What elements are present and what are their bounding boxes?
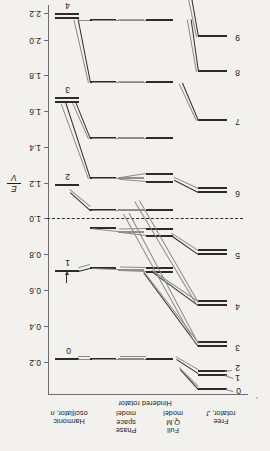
axis-tick xyxy=(44,254,49,255)
correlation-line xyxy=(120,20,146,21)
free-rotator-level xyxy=(198,119,227,121)
correlation-line xyxy=(120,270,146,272)
correlation-line xyxy=(92,82,118,83)
axis-tick-label: 2.0 xyxy=(29,36,41,46)
hindered-rotator-level xyxy=(146,19,173,21)
correlation-line xyxy=(129,213,199,344)
correlation-line xyxy=(92,268,118,270)
harmonic-oscillator-level xyxy=(55,184,79,186)
correlation-line xyxy=(92,20,118,21)
correlation-line xyxy=(172,236,199,255)
label-leader-line xyxy=(225,375,234,379)
scan-artifact-speck xyxy=(256,397,258,399)
label-leader-line xyxy=(225,370,232,372)
correlation-line xyxy=(92,210,118,211)
correlation-line xyxy=(179,367,199,387)
free-rotator-level xyxy=(198,70,227,72)
free-rotator-label-7: 7 xyxy=(235,117,240,127)
free-rotator-label-1: 1 xyxy=(235,373,240,383)
hindered-rotator-level xyxy=(146,209,173,211)
correlation-line xyxy=(179,83,197,121)
axis-tick xyxy=(44,13,49,14)
correlation-line xyxy=(120,82,146,83)
axis-tick xyxy=(44,183,49,184)
harmonic-oscillator-level xyxy=(55,358,79,360)
column-header-harmonic-oscillator: Harmonic oscillator, n xyxy=(36,408,102,425)
free-rotator-level xyxy=(198,374,227,376)
harmonic-oscillator-level xyxy=(55,17,79,19)
harmonic-oscillator-label-4: 4 xyxy=(65,1,70,11)
free-rotator-label-8: 8 xyxy=(235,68,240,78)
hindered-rotator-level xyxy=(146,358,173,360)
free-rotator-level xyxy=(198,388,227,390)
correlation-line xyxy=(69,189,90,207)
harmonic-oscillator-label-3: 3 xyxy=(65,85,70,95)
column-header-hindered-rotator: Hindered rotator xyxy=(102,399,188,407)
free-rotator-label-5: 5 xyxy=(235,251,240,261)
free-rotator-level xyxy=(198,341,227,343)
correlation-line xyxy=(171,233,198,251)
free-rotator-label-9: 9 xyxy=(235,33,240,43)
free-rotator-label-2: 2 xyxy=(235,363,240,373)
correlation-line xyxy=(120,359,146,360)
free-rotator-level xyxy=(198,345,227,347)
free-rotator-label-3: 3 xyxy=(235,343,240,353)
free-rotator-level xyxy=(198,249,227,251)
hindered-rotator-level xyxy=(146,81,173,83)
figure-canvas: Free rotator, J Hindered rotator Full Q.… xyxy=(0,0,270,451)
energy-axis-line xyxy=(48,5,49,395)
harmonic-oscillator-level xyxy=(55,97,79,99)
axis-tick xyxy=(44,75,49,76)
axis-tick xyxy=(44,290,49,291)
free-rotator-level xyxy=(198,191,227,193)
correlation-line xyxy=(182,83,199,121)
axis-tick xyxy=(44,111,49,112)
free-rotator-level xyxy=(198,304,227,306)
correlation-line xyxy=(120,356,146,357)
correlation-line xyxy=(119,179,146,182)
axis-tick-label: 1.8 xyxy=(29,71,41,81)
free-rotator-label-4: 4 xyxy=(235,302,240,312)
plot-top-border xyxy=(48,394,248,395)
column-header-phase-space-model: Phase space model xyxy=(106,409,146,434)
harmonic-oscillator-label-0: 0 xyxy=(66,346,71,356)
correlation-line xyxy=(75,102,91,139)
column-header-full-qm-model: Full Q.M model xyxy=(158,409,188,434)
correlation-line xyxy=(61,103,89,179)
axis-label-E-over-V: E V xyxy=(7,174,21,193)
correlation-line xyxy=(120,210,146,211)
correlation-line xyxy=(120,267,146,268)
hindered-rotator-level xyxy=(146,137,173,139)
correlation-line xyxy=(78,356,90,357)
free-rotator-level xyxy=(198,187,227,189)
free-rotator-level xyxy=(198,35,227,37)
label-leader-line xyxy=(225,389,233,392)
correlation-line xyxy=(78,19,91,83)
free-rotator-level xyxy=(198,253,227,255)
scan-artifact-speck xyxy=(72,409,74,411)
axis-tick-label: 1.4 xyxy=(29,143,41,153)
hindered-rotator-level xyxy=(146,181,173,183)
axis-tick xyxy=(44,362,49,363)
free-rotator-label-0: 0 xyxy=(236,386,241,396)
column-header-free-rotator: Free rotator, J xyxy=(190,408,252,425)
axis-tick-label: 0.2 xyxy=(29,358,41,368)
correlation-line xyxy=(92,138,118,139)
hindered-rotator-level xyxy=(146,173,173,175)
axis-tick xyxy=(44,40,49,41)
correlation-line xyxy=(92,178,118,179)
correlation-line xyxy=(78,268,90,272)
axis-tick-label: 0.6 xyxy=(29,286,41,296)
axis-tick xyxy=(44,147,49,148)
axis-tick-label: 0.8 xyxy=(29,250,41,260)
correlation-line xyxy=(73,19,89,83)
free-rotator-label-6: 6 xyxy=(235,189,240,199)
free-rotator-level xyxy=(198,300,227,302)
correlation-line xyxy=(78,20,90,21)
correlation-line xyxy=(142,269,199,343)
axis-tick-label: 0.4 xyxy=(29,322,41,332)
correlation-line xyxy=(70,192,91,211)
axis-tick xyxy=(44,326,49,327)
axis-tick-label: 1.6 xyxy=(29,107,41,117)
harmonic-oscillator-label-1: 1 xyxy=(65,258,70,268)
